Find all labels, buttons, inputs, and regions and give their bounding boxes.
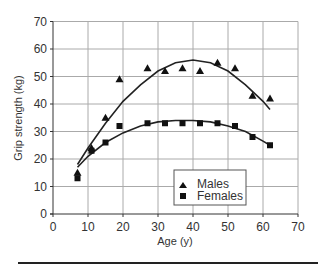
square-marker-icon	[250, 134, 256, 140]
grip-strength-chart: 010203040506070 010203040506070 Grip str…	[0, 0, 320, 266]
y-tick-label: 60	[34, 42, 48, 56]
triangle-marker-icon	[266, 95, 274, 102]
square-marker-icon	[75, 175, 81, 181]
y-tick-labels: 010203040506070	[34, 15, 48, 222]
legend-label-females: Females	[197, 189, 243, 203]
y-tick-label: 20	[34, 152, 48, 166]
x-tick-label: 60	[256, 220, 270, 234]
x-tick-labels: 010203040506070	[50, 220, 305, 234]
y-tick-label: 30	[34, 125, 48, 139]
square-marker-icon	[180, 193, 186, 199]
x-tick-label: 40	[186, 220, 200, 234]
y-axis-label: Grip strength (kg)	[12, 75, 24, 161]
x-tick-label: 30	[151, 220, 165, 234]
square-marker-icon	[215, 120, 221, 126]
triangle-marker-icon	[161, 67, 169, 74]
x-tick-label: 20	[116, 220, 130, 234]
x-axis-label: Age (y)	[157, 235, 192, 247]
triangle-marker-icon	[179, 64, 187, 71]
y-tick-label: 0	[40, 207, 47, 221]
square-marker-icon	[232, 123, 238, 129]
triangle-marker-icon	[74, 169, 82, 176]
square-marker-icon	[103, 140, 109, 146]
legend: Males Females	[174, 170, 246, 205]
x-tick-label: 0	[50, 220, 57, 234]
square-marker-icon	[197, 120, 203, 126]
fit-curve-males	[78, 60, 271, 165]
square-marker-icon	[89, 148, 95, 154]
triangle-marker-icon	[144, 64, 152, 71]
y-tick-label: 40	[34, 97, 48, 111]
x-tick-label: 70	[291, 220, 305, 234]
triangle-marker-icon	[231, 64, 239, 71]
y-tick-label: 50	[34, 70, 48, 84]
x-tick-label: 50	[221, 220, 235, 234]
square-marker-icon	[180, 120, 186, 126]
triangle-marker-icon	[102, 114, 110, 121]
triangle-marker-icon	[196, 67, 204, 74]
y-tick-label: 70	[34, 15, 48, 29]
y-tick-label: 10	[34, 180, 48, 194]
square-marker-icon	[162, 120, 168, 126]
bottom-rule	[18, 262, 318, 264]
square-marker-icon	[117, 123, 123, 129]
triangle-marker-icon	[214, 59, 222, 66]
square-marker-icon	[267, 142, 273, 148]
triangle-marker-icon	[249, 92, 257, 99]
square-marker-icon	[145, 120, 151, 126]
x-tick-label: 10	[81, 220, 95, 234]
